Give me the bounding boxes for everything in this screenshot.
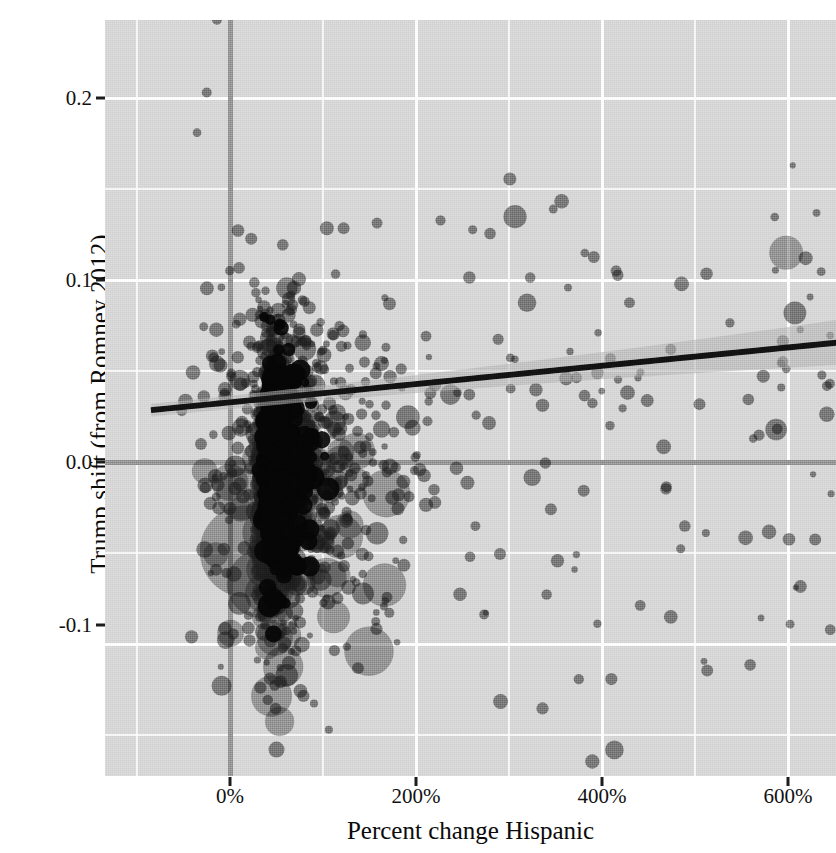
x-tick-mark bbox=[415, 777, 418, 786]
y-tick-label: 0.0 bbox=[66, 450, 92, 475]
y-tick-label: -0.1 bbox=[59, 613, 92, 638]
y-tick-mark bbox=[96, 461, 105, 464]
x-tick-label: 400% bbox=[578, 784, 627, 809]
x-tick-label: 200% bbox=[392, 784, 441, 809]
scatter-chart: Trump shift (from Romney 2012) Percent c… bbox=[0, 0, 836, 853]
scatter-points-layer bbox=[105, 20, 836, 776]
x-tick-mark bbox=[229, 777, 232, 786]
x-tick-mark bbox=[601, 777, 604, 786]
y-tick-label: 0.2 bbox=[66, 86, 92, 111]
x-tick-label: 0% bbox=[216, 784, 244, 809]
x-tick-label: 600% bbox=[764, 784, 813, 809]
plot-panel bbox=[105, 20, 836, 776]
x-axis-title: Percent change Hispanic bbox=[105, 817, 836, 845]
y-tick-mark bbox=[96, 279, 105, 282]
y-tick-label: 0.1 bbox=[66, 268, 92, 293]
y-tick-mark bbox=[96, 97, 105, 100]
y-tick-mark bbox=[96, 624, 105, 627]
x-tick-mark bbox=[787, 777, 790, 786]
